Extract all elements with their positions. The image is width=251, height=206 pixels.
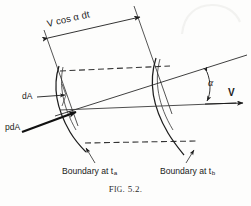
- label-boundary-at-tb: Boundary at tb: [160, 167, 215, 177]
- caption-rest: . 5.2.: [123, 184, 143, 194]
- boundary-b-subscript: b: [211, 169, 215, 176]
- inclined-axis-line: [55, 55, 247, 116]
- figure-caption: FIG. 5.2.: [0, 184, 251, 194]
- caption-smallcaps: IG: [114, 185, 123, 194]
- velocity-vector-arrow: [205, 103, 243, 104]
- label-boundary-at-ta: Boundary at ta: [62, 167, 117, 177]
- label-dA: dA: [22, 92, 32, 101]
- boundary-a-subscript: a: [113, 169, 117, 176]
- dashed-line-bottom: [85, 141, 196, 143]
- label-velocity-V: V: [228, 88, 235, 98]
- leader-line-boundary-tb: [186, 150, 194, 163]
- leader-line-boundary-ta: [86, 148, 95, 163]
- label-alpha-angle: α: [208, 78, 213, 88]
- boundary-b-text: Boundary at t: [160, 166, 211, 176]
- scan-smudge: [182, 5, 240, 34]
- boundary-a-text: Boundary at t: [62, 166, 113, 176]
- label-pdA: pdA: [5, 123, 20, 132]
- construction-line-right: [134, 6, 172, 114]
- figure-container: V cos α dt dA pdA α V Boundary at ta Bou…: [0, 0, 251, 206]
- leader-line-dA: [37, 95, 65, 97]
